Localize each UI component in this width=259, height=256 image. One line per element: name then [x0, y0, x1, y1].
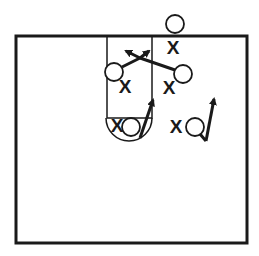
play-diagram: X X X X X	[0, 0, 259, 256]
cut-arrow-left	[126, 51, 140, 58]
cut-line-right-player	[140, 58, 175, 70]
cut-line-left-player	[122, 58, 140, 67]
defense-player-2: X	[119, 76, 132, 97]
offense-player-3	[174, 65, 192, 83]
defense-player-1: X	[167, 37, 180, 58]
offense-player-4	[122, 118, 140, 136]
defense-player-4: X	[111, 115, 124, 136]
cut-arrow-right	[140, 51, 149, 58]
offense-player-1	[166, 15, 184, 33]
cut-arrow-wing	[206, 99, 214, 141]
defense-player-3: X	[163, 77, 176, 98]
offense-player-5	[186, 118, 204, 136]
court-boundary	[16, 36, 247, 243]
defense-player-5: X	[170, 116, 183, 137]
